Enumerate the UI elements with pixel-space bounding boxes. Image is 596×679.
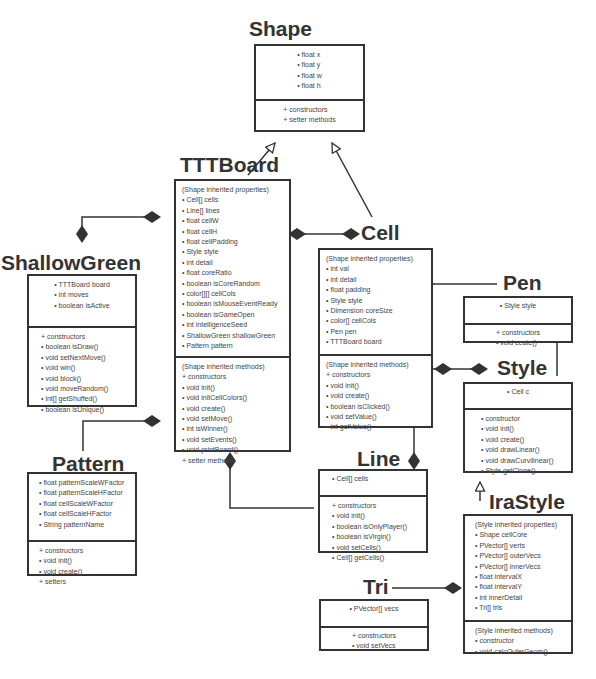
method: • void init() bbox=[481, 424, 565, 434]
prop: • Tri[] tris bbox=[475, 603, 565, 613]
method: • int[] getShuffed() bbox=[41, 394, 129, 404]
method: • void setNextMove() bbox=[41, 353, 129, 363]
pattern-properties: • float patternScaleWFactor • float patt… bbox=[29, 474, 135, 540]
tttboard-properties: (Shape inherited properties) • Cell[] ce… bbox=[176, 181, 289, 356]
method: • void setValue() bbox=[326, 412, 425, 422]
method: • void calcOuterGeom() bbox=[475, 647, 565, 657]
prop: • float patternScaleWFactor bbox=[39, 478, 129, 488]
method: • boolean isClicked() bbox=[326, 402, 425, 412]
method: • void printBoard() bbox=[182, 445, 283, 455]
class-title-pen: Pen bbox=[503, 272, 542, 293]
method: (Shape inherited methods) bbox=[182, 362, 283, 372]
tttboard-methods: (Shape inherited methods) + constructors… bbox=[176, 356, 289, 470]
class-title-pattern: Pattern bbox=[52, 453, 124, 474]
method: • void block() bbox=[41, 374, 129, 384]
prop: • Pattern pattern bbox=[182, 341, 283, 351]
method: + constructors bbox=[352, 631, 396, 641]
class-box-pattern: • float patternScaleWFactor • float patt… bbox=[27, 472, 137, 576]
inheritance-cell-shape bbox=[332, 143, 372, 217]
prop: • int detail bbox=[182, 258, 283, 268]
method: + constructors bbox=[182, 372, 283, 382]
prop: • PVector[] vecs bbox=[349, 604, 398, 614]
method: • Style getClone() bbox=[481, 466, 565, 476]
method: • boolean isOnlyPlayer() bbox=[332, 522, 420, 532]
prop: • float h bbox=[297, 81, 322, 91]
prop: • float patternScaleHFactor bbox=[39, 488, 129, 498]
method: • void drawLinear() bbox=[481, 445, 565, 455]
prop: • float padding bbox=[326, 285, 425, 295]
prop: • Style style bbox=[500, 301, 536, 311]
class-box-shallowgreen: • TTTBoard board • int moves • boolean i… bbox=[27, 274, 137, 407]
method: • boolean isUnique() bbox=[41, 405, 129, 415]
composition-shallowgreen-tttboard bbox=[82, 217, 158, 240]
prop: (Shape inherited properties) bbox=[326, 254, 425, 264]
pen-properties: • Style style bbox=[465, 298, 571, 323]
method: + constructors bbox=[326, 370, 425, 380]
method: • Cell[] getCells() bbox=[332, 553, 420, 563]
class-title-style: Style bbox=[497, 357, 547, 378]
method: • void setMove() bbox=[182, 414, 283, 424]
method: • boolean isDraw() bbox=[41, 342, 129, 352]
diamond-irastyle-tri bbox=[444, 582, 462, 594]
prop: • color[] cellCols bbox=[326, 316, 425, 326]
prop: • int intelligenceSeed bbox=[182, 320, 283, 330]
shape-methods: + constructors + setter methods bbox=[256, 99, 363, 130]
method: • int isWinner() bbox=[182, 424, 283, 434]
method: (Shape inherited methods) bbox=[326, 360, 425, 370]
method: + setter methods bbox=[182, 456, 283, 466]
method: (Style inherited methods) bbox=[475, 626, 565, 636]
prop: • float w bbox=[297, 71, 322, 81]
style-methods: • constructor • void init() • void creat… bbox=[465, 408, 571, 480]
prop: • float cellW bbox=[182, 216, 283, 226]
pattern-methods: + constructors • void init() • void crea… bbox=[29, 540, 135, 592]
shallowgreen-properties: • TTTBoard board • int moves • boolean i… bbox=[29, 276, 135, 326]
class-title-line: Line bbox=[357, 448, 400, 469]
prop: • PVector[] verts bbox=[475, 541, 565, 551]
method: • void win() bbox=[41, 363, 129, 373]
method: • void setEvents() bbox=[182, 435, 283, 445]
class-box-line: • Cell[] cells + constructors • void ini… bbox=[318, 469, 428, 553]
prop: • float x bbox=[297, 50, 322, 60]
class-box-cell: (Shape inherited properties) • int val •… bbox=[318, 248, 433, 428]
prop: • boolean isCoreRandom bbox=[182, 279, 283, 289]
irastyle-methods: (Style inherited methods) • constructor … bbox=[465, 620, 571, 661]
prop: • color[][] cellCols bbox=[182, 289, 283, 299]
prop: • int val bbox=[326, 264, 425, 274]
diamond-cell-line bbox=[408, 452, 420, 470]
method: • void drawCurvilinear() bbox=[481, 456, 565, 466]
line-properties: • Cell[] cells bbox=[320, 471, 426, 495]
method: • void create() bbox=[182, 404, 283, 414]
class-box-shape: • float x • float y • float w • float h … bbox=[254, 44, 365, 132]
class-title-cell: Cell bbox=[361, 222, 400, 243]
prop: • Style style bbox=[326, 296, 425, 306]
method: • void init() bbox=[326, 381, 425, 391]
class-box-pen: • Style style + constructors • void ceat… bbox=[463, 296, 573, 343]
class-box-tttboard: (Shape inherited properties) • Cell[] ce… bbox=[174, 179, 291, 452]
method: • void init() bbox=[182, 383, 283, 393]
class-box-irastyle: (Style inherited properties) • Shape cel… bbox=[463, 514, 573, 654]
method: • constructor bbox=[475, 636, 565, 646]
class-title-tri: Tri bbox=[363, 576, 389, 597]
prop: • Dimension coreSize bbox=[326, 306, 425, 316]
method: + constructors bbox=[41, 332, 129, 342]
tri-properties: • PVector[] vecs bbox=[321, 601, 427, 626]
prop: • int innerDetail bbox=[475, 593, 565, 603]
prop: • float intervalX bbox=[475, 572, 565, 582]
class-title-irastyle: IraStyle bbox=[489, 491, 565, 512]
diamond-shallowgreen bbox=[76, 225, 88, 243]
method: • void create() bbox=[326, 391, 425, 401]
prop: • float intervalY bbox=[475, 582, 565, 592]
prop: • float cellScaleWFactor bbox=[39, 499, 129, 509]
prop: • float cellH bbox=[182, 227, 283, 237]
method: • void create() bbox=[481, 435, 565, 445]
composition-pattern-tttboard bbox=[83, 421, 158, 451]
method: • void ceate() bbox=[496, 338, 540, 348]
method: + setter methods bbox=[283, 115, 335, 125]
diamond-cell-style bbox=[434, 363, 452, 375]
prop: • float cellScaleHFactor bbox=[39, 509, 129, 519]
prop: • Cell[] cells bbox=[332, 474, 420, 484]
prop: • TTTBoard board bbox=[54, 280, 110, 290]
irastyle-properties: (Style inherited properties) • Shape cel… bbox=[465, 516, 571, 620]
method: • boolean isVirgin() bbox=[332, 532, 420, 542]
cell-methods: (Shape inherited methods) + constructors… bbox=[320, 354, 431, 437]
